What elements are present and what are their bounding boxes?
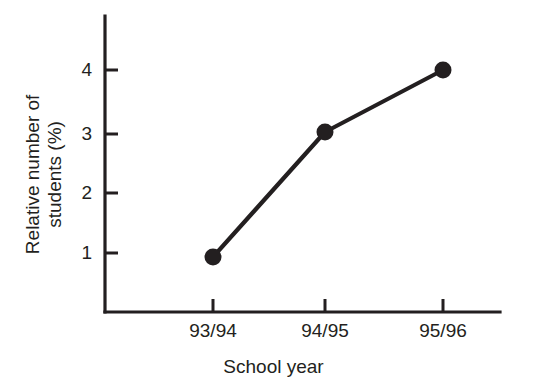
data-point-94-95 [317, 124, 334, 141]
x-tick-label-95-96: 95/96 [388, 320, 498, 342]
data-series-line [213, 70, 443, 257]
x-tick-label-94-95: 94/95 [270, 320, 380, 342]
y-axis-title-line-2: students (%) [44, 34, 66, 314]
chart-figure: 1 2 3 4 93/94 94/95 95/96 School year Re… [0, 0, 547, 387]
data-point-95-96 [435, 62, 452, 79]
x-tick-label-93-94: 93/94 [158, 320, 268, 342]
data-point-93-94 [205, 249, 222, 266]
y-axis-title-line-1: Relative number of [22, 34, 44, 314]
x-axis-title: School year [0, 356, 547, 378]
y-axis-title: Relative number of students (%) [22, 34, 67, 314]
